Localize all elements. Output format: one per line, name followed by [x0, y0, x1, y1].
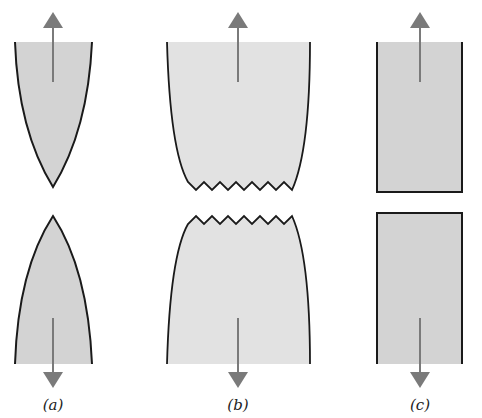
panel-a-label: (a): [23, 396, 83, 414]
panel-c-label: (c): [390, 396, 450, 414]
fracture-diagram: [0, 0, 482, 418]
panel-b-label: (b): [208, 396, 268, 414]
